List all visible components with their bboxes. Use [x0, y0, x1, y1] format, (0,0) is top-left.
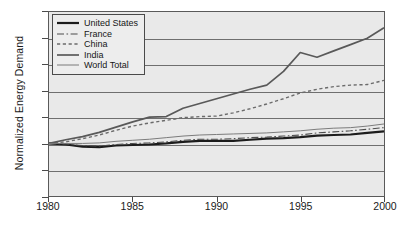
legend-item-label: France [84, 29, 112, 40]
legend-item[interactable]: China [57, 39, 138, 50]
y-axis-title: Normalized Energy Demand [13, 18, 25, 188]
x-tick-label: 1995 [279, 200, 323, 212]
legend-swatch-icon [57, 29, 79, 39]
legend-item-label: India [84, 50, 104, 61]
legend: United StatesFranceChinaIndiaWorld Total [52, 14, 145, 75]
legend-swatch-icon [57, 18, 79, 28]
x-tick-label: 1990 [195, 200, 239, 212]
x-tick-label: 1985 [110, 200, 154, 212]
x-tick-label: 1980 [26, 200, 70, 212]
legend-item[interactable]: World Total [57, 60, 138, 71]
legend-item-label: China [84, 39, 108, 50]
legend-swatch-icon [57, 60, 79, 70]
x-tick-label: 2000 [363, 200, 401, 212]
legend-item[interactable]: France [57, 29, 138, 40]
legend-item[interactable]: United States [57, 18, 138, 29]
legend-item-label: World Total [84, 60, 129, 71]
legend-item-label: United States [84, 18, 138, 29]
legend-swatch-icon [57, 50, 79, 60]
legend-swatch-icon [57, 39, 79, 49]
legend-item[interactable]: India [57, 50, 138, 61]
